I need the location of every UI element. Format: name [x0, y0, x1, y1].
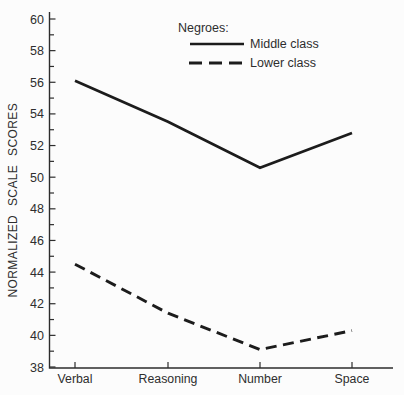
x-category-label: Verbal: [58, 372, 93, 386]
series-line-lower-class: [75, 264, 352, 349]
figure: 384042444648505254565860VerbalReasoningN…: [0, 0, 404, 395]
x-category-label: Number: [238, 372, 282, 386]
legend-label-lower-class: Lower class: [250, 56, 316, 70]
y-tick-label: 54: [30, 107, 44, 121]
y-tick-label: 38: [30, 361, 44, 375]
legend-solid-line-icon: [189, 41, 245, 47]
y-tick-label: 40: [30, 329, 44, 343]
y-tick-label: 56: [30, 76, 44, 90]
y-tick-label: 50: [30, 171, 44, 185]
legend-label-middle-class: Middle class: [250, 37, 319, 51]
legend-dashed-line-icon: [189, 59, 245, 67]
y-tick-label: 46: [30, 234, 44, 248]
y-tick-label: 42: [30, 297, 44, 311]
x-category-label: Space: [335, 372, 370, 386]
y-tick-label: 48: [30, 202, 44, 216]
y-tick-label: 44: [30, 266, 44, 280]
y-tick-label: 58: [30, 44, 44, 58]
y-tick-label: 52: [30, 139, 44, 153]
legend-title: Negroes:: [178, 21, 229, 35]
y-axis-title: NORMALIZED SCALE SCORES: [6, 118, 21, 298]
y-tick-label: 60: [30, 13, 44, 27]
x-category-label: Reasoning: [139, 372, 198, 386]
series-line-middle-class: [75, 81, 352, 168]
